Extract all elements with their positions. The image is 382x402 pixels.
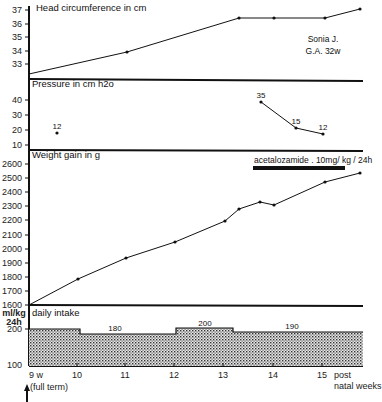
svg-text:12: 12 [169,370,179,380]
svg-text:14: 14 [268,370,278,380]
treatment-label: acetalozamide . 10mg/ kg / 24h [254,155,372,165]
chart-figure: Head circumference in cm 37 36 35 34 33 … [0,0,382,402]
svg-text:30: 30 [12,110,22,120]
svg-text:11: 11 [120,370,129,380]
svg-text:34: 34 [12,46,22,56]
svg-text:2200: 2200 [2,215,22,225]
weight-data-points [76,171,361,280]
treatment-duration-bar [253,166,345,170]
full-term-note: (full term) [30,382,68,392]
head-y-ticks: 37 36 35 34 33 [12,5,29,69]
pressure-label: 12 [319,123,328,132]
intake-label: 180 [108,324,122,333]
svg-text:20: 20 [12,125,22,135]
weight-y-ticks: 2600 2500 2400 2300 2200 2100 2000 1900 … [2,159,29,310]
svg-text:1900: 1900 [2,258,22,268]
pressure-label: 35 [257,91,266,100]
intake-label: 200 [198,319,212,328]
svg-text:1700: 1700 [2,286,22,296]
svg-text:10: 10 [72,370,82,380]
svg-text:13: 13 [218,370,228,380]
intake-label: 190 [285,322,299,331]
svg-text:37: 37 [12,5,22,15]
svg-text:100: 100 [7,360,22,370]
panel-divider-weight [29,305,363,306]
svg-text:10: 10 [12,140,22,150]
patient-gestational-age: G.A. 32w [306,46,342,56]
pressure-label: 12 [53,122,62,131]
x-axis-label-line1: post [334,370,352,380]
svg-text:2600: 2600 [2,159,22,169]
head-panel-title: Head circumference in cm [36,2,146,13]
intake-panel-title: daily intake [32,307,80,318]
patient-name: Sonia J. [308,34,339,44]
weight-line [29,173,360,305]
svg-text:40: 40 [12,95,22,105]
pressure-y-ticks: 40 30 20 10 [12,95,29,150]
svg-text:36: 36 [12,19,22,29]
svg-text:9 w: 9 w [29,370,44,380]
intake-y-ticks: 200 100 [7,324,29,370]
svg-text:35: 35 [12,32,22,42]
svg-text:2500: 2500 [2,173,22,183]
svg-text:15: 15 [317,370,327,380]
pressure-panel-title: Pressure in cm h2o [32,78,114,89]
svg-text:2300: 2300 [2,201,22,211]
intake-area [29,328,363,366]
x-axis-label-line2: natal weeks [334,381,382,391]
pressure-label: 15 [292,117,301,126]
svg-text:200: 200 [7,324,22,334]
svg-text:33: 33 [12,59,22,69]
svg-text:2000: 2000 [2,244,22,254]
pressure-point [55,131,58,134]
svg-text:1800: 1800 [2,272,22,282]
svg-text:2100: 2100 [2,230,22,240]
svg-text:2400: 2400 [2,187,22,197]
weight-panel-title: Weight gain in g [32,149,100,160]
